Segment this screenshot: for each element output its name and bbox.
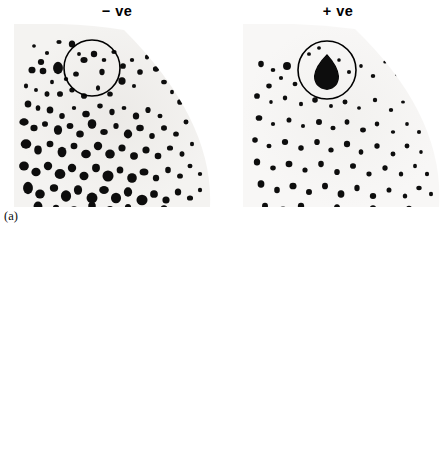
blot-spot	[187, 164, 192, 169]
blot-spot	[403, 193, 408, 198]
blot-spot	[165, 167, 171, 174]
blot-spot	[389, 108, 393, 112]
blot-spot	[338, 190, 345, 198]
blot-spot	[357, 106, 361, 109]
blot-spot	[198, 172, 202, 176]
blot-spot	[266, 144, 271, 149]
blot-spot	[124, 130, 132, 139]
blot-spot	[25, 100, 32, 107]
blot-spot	[371, 74, 376, 78]
blot-spot	[44, 162, 52, 170]
blot-spot	[399, 171, 404, 176]
blot-spot	[80, 57, 87, 63]
blot-spot	[56, 40, 61, 44]
blot-spot	[307, 52, 311, 56]
blot-spot	[342, 100, 347, 105]
blot-spot	[360, 128, 366, 133]
blot-spot	[130, 58, 134, 62]
blot-spot	[150, 190, 158, 198]
panel-group-b: − ve + ve	[0, 230, 447, 460]
blot-spot	[282, 139, 288, 145]
blot-spot	[107, 91, 113, 96]
blot-spot	[337, 58, 341, 62]
blot-spot	[157, 114, 162, 119]
blot-spot	[45, 91, 50, 96]
blot-spot	[254, 93, 260, 99]
blot-spot	[254, 158, 260, 165]
blot-spot	[73, 71, 79, 76]
blot-spot	[391, 130, 395, 134]
blot-spot	[155, 153, 162, 160]
blot-spot	[270, 166, 276, 171]
autoradiograph-figure: − ve + ve	[0, 0, 447, 460]
blot-spot	[395, 72, 399, 76]
blot-spot	[153, 175, 159, 182]
blot-spot	[145, 54, 149, 59]
blot-spot	[24, 84, 28, 89]
blot-spot	[120, 63, 126, 69]
blot-spot	[286, 161, 293, 167]
blot-spot	[345, 119, 350, 124]
blot-spot	[45, 51, 49, 55]
blot-spot	[149, 133, 155, 139]
blot-spot	[38, 59, 44, 65]
blot-spot	[175, 188, 181, 195]
blot-spot	[50, 184, 58, 191]
blot-spot	[314, 139, 320, 145]
blot-spot	[258, 61, 264, 67]
blot-spot	[354, 185, 359, 192]
blot-spot	[132, 84, 136, 88]
blot-spot	[53, 62, 63, 74]
blot-spot	[383, 60, 386, 63]
blot-spot	[180, 151, 185, 156]
blot-spot	[102, 58, 107, 62]
blot-spot	[401, 100, 405, 103]
blot-spot	[88, 119, 97, 129]
column-label-positive-a: + ve	[283, 3, 393, 19]
blot-spot	[82, 111, 90, 118]
blot-spot	[118, 144, 125, 151]
blot-spot	[145, 107, 150, 113]
blot-spot	[322, 183, 328, 190]
blot-spot	[190, 142, 194, 147]
blot-spot	[350, 163, 356, 169]
blot-spot	[318, 161, 324, 167]
blot-canvas-a-negative	[14, 24, 216, 207]
blot-spot	[71, 143, 78, 149]
blot-spot	[177, 173, 183, 178]
blot-spot	[334, 169, 340, 175]
blot-spot	[405, 122, 409, 126]
blot-spot	[173, 131, 179, 136]
blot-spot	[391, 152, 396, 157]
blot-spot	[347, 70, 351, 74]
blot-spot	[425, 172, 429, 176]
blot-spot	[36, 105, 41, 111]
blot-spot	[299, 102, 303, 107]
blot-spot	[67, 123, 74, 129]
blot-spot	[30, 125, 37, 131]
blot-spot	[137, 69, 143, 75]
blot-spot	[330, 126, 335, 131]
blot-spot	[375, 122, 380, 127]
blot-spot	[50, 80, 54, 85]
blot-spot	[279, 76, 283, 80]
blot-spot	[77, 52, 81, 56]
blot-spot	[274, 187, 280, 194]
blot-spot	[382, 165, 387, 171]
blot-spot	[92, 164, 100, 172]
blot-spot	[99, 69, 104, 75]
blot-spot	[140, 168, 149, 175]
blot-spot	[47, 106, 54, 113]
blot-spot	[283, 62, 291, 70]
blot-spot	[28, 67, 35, 74]
blot-spot	[405, 144, 410, 149]
blot-spot	[198, 188, 202, 193]
blot-spot	[102, 170, 113, 181]
blot-spot	[161, 80, 167, 85]
blot-spot	[187, 195, 193, 200]
blot-spot	[293, 82, 298, 86]
blot-spot	[366, 172, 371, 177]
blot-spot	[59, 113, 65, 119]
blot-spot	[34, 146, 41, 155]
blot-spot	[162, 196, 169, 203]
